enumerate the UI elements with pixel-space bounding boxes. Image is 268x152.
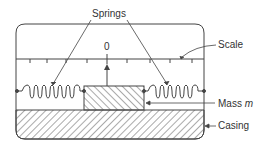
scale-leader: [180, 45, 216, 59]
left-spring: [16, 85, 86, 98]
mass-leader: [146, 101, 215, 105]
scale-label: Scale: [218, 39, 243, 50]
pointer-arrow: [104, 64, 110, 86]
casing-leader: [205, 124, 216, 128]
right-spring: [143, 85, 206, 98]
mass-symbol: m: [245, 98, 253, 109]
springs-label: Springs: [92, 8, 126, 19]
springs-leader-lines: [51, 20, 169, 85]
accelerometer-diagram: 0 Springs Scale Mass m Casing: [0, 0, 268, 152]
casing-label: Casing: [218, 120, 249, 131]
scale-zero-label: 0: [104, 41, 110, 52]
casing-base: [16, 110, 204, 139]
mass-label: Mass m: [218, 98, 253, 109]
mass-block: [84, 86, 144, 110]
scale: [16, 54, 204, 64]
mass-label-text: Mass: [218, 98, 242, 109]
